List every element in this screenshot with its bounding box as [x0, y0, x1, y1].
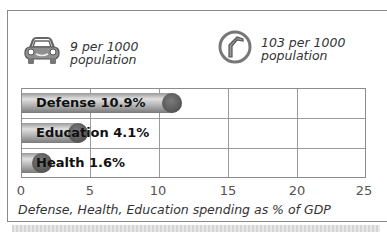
car-stat: 9 per 1000 population [22, 36, 138, 70]
bar-label-health: Health 1.6% [36, 155, 125, 170]
telephone-stat-text: 103 per 1000 population [261, 36, 345, 62]
x-tick-25: 25 [356, 183, 373, 198]
bar-label-education: Education 4.1% [36, 125, 149, 140]
bar-label-defense: Defense 10.9% [36, 95, 146, 110]
telephone-stat-unit: population [261, 49, 345, 62]
gridline-15 [228, 89, 229, 177]
bar-cap [162, 93, 182, 113]
x-tick-15: 15 [220, 183, 237, 198]
gridline-20 [297, 89, 298, 177]
row-divider-2 [22, 148, 365, 149]
x-tick-20: 20 [289, 183, 306, 198]
x-tick-5: 5 [86, 183, 94, 198]
bar-chart-plot: Defense 10.9% Education 4.1% Health 1.6% [21, 88, 366, 178]
x-tick-0: 0 [17, 183, 25, 198]
car-icon [22, 36, 62, 70]
car-stat-unit: population [70, 53, 138, 66]
telephone-icon [217, 29, 253, 69]
x-tick-10: 10 [150, 183, 167, 198]
telephone-stat: 103 per 1000 population [217, 29, 345, 69]
bottom-shadow-band [12, 225, 380, 232]
car-stat-text: 9 per 1000 population [70, 40, 138, 66]
row-divider-1 [22, 118, 365, 119]
chart-caption: Defense, Health, Education spending as %… [18, 202, 331, 217]
